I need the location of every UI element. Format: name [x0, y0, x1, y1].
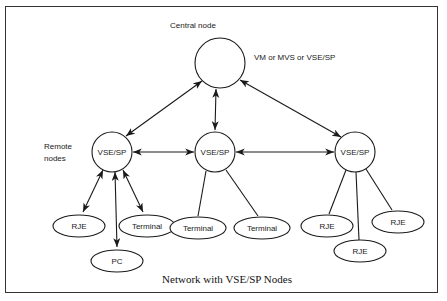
node-mid-terminal-2[interactable]: Terminal	[234, 217, 290, 239]
central-node-annotation: Central node	[170, 21, 216, 30]
remote-right-label: VSE/SP	[341, 148, 370, 157]
node-remote-middle[interactable]: VSE/SP	[195, 132, 235, 172]
link-right-rje-1	[329, 170, 346, 214]
remote-left-label: VSE/SP	[98, 148, 127, 157]
left-pc-label: PC	[111, 257, 122, 266]
node-left-terminal[interactable]: Terminal	[119, 215, 175, 237]
node-right-rje-3[interactable]: RJE	[334, 240, 386, 262]
mid-terminal-2-label: Terminal	[247, 224, 277, 233]
central-to-remote-links	[126, 80, 341, 137]
figure-caption: Network with VSE/SP Nodes	[162, 273, 292, 285]
remote-middle-label: VSE/SP	[201, 148, 230, 157]
link-right-rje-3	[356, 172, 359, 240]
right-rje-1-label: RJE	[319, 222, 334, 231]
remote-nodes-annotation-line2: nodes	[44, 154, 66, 163]
node-right-rje-2[interactable]: RJE	[372, 211, 424, 233]
node-mid-terminal-1[interactable]: Terminal	[170, 217, 226, 239]
node-left-rje[interactable]: RJE	[53, 215, 105, 237]
link-left-pc	[115, 172, 117, 247]
left-terminal-label: Terminal	[132, 222, 162, 231]
link-left-terminal	[123, 170, 143, 212]
link-central-remote-middle	[215, 89, 216, 130]
network-diagram: VSE/SP VSE/SP VSE/SP RJE Terminal PC Ter…	[0, 0, 447, 301]
diagram-page: VSE/SP VSE/SP VSE/SP RJE Terminal PC Ter…	[0, 0, 447, 301]
link-mid-terminal-2	[226, 170, 258, 216]
right-rje-3-label: RJE	[352, 247, 367, 256]
link-mid-terminal-1	[198, 171, 206, 216]
node-remote-left[interactable]: VSE/SP	[92, 132, 132, 172]
middle-terminal-links	[198, 170, 258, 216]
node-left-pc[interactable]: PC	[91, 250, 143, 272]
mid-terminal-1-label: Terminal	[183, 224, 213, 233]
link-central-remote-left	[126, 81, 202, 136]
left-rje-label: RJE	[71, 222, 86, 231]
central-node-circle[interactable]	[195, 38, 245, 88]
node-right-rje-1[interactable]: RJE	[301, 215, 353, 237]
right-rje-2-label: RJE	[390, 218, 405, 227]
remote-nodes-annotation-line1: Remote	[44, 142, 73, 151]
link-central-remote-right	[240, 80, 341, 137]
central-systems-annotation: VM or MVS or VSE/SP	[254, 53, 335, 62]
node-central[interactable]	[195, 38, 245, 88]
link-left-rje	[83, 170, 103, 212]
link-right-rje-2	[366, 169, 392, 210]
node-remote-right[interactable]: VSE/SP	[335, 132, 375, 172]
